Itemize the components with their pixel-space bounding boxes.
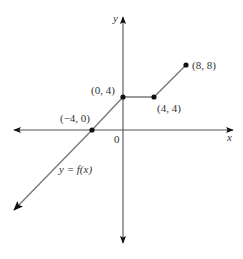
function-graph: y x 0 (−4, 0) (0, 4) (4, 4) (8, 8) y = f… [0,0,243,259]
graph-polyline [92,65,186,130]
point-0-4 [120,94,125,99]
point-neg4-0 [89,127,94,132]
point-4-4 [151,94,156,99]
point-label-0-4: (0, 4) [91,84,115,97]
point-label-4-4: (4, 4) [157,102,181,115]
point-label-8-8: (8, 8) [192,59,216,72]
function-label: y = f(x) [58,163,92,176]
origin-label: 0 [114,133,120,145]
y-axis-label: y [112,12,118,24]
point-8-8 [183,62,188,67]
x-axis-label: x [226,131,232,143]
point-label-neg4-0: (−4, 0) [60,112,90,125]
